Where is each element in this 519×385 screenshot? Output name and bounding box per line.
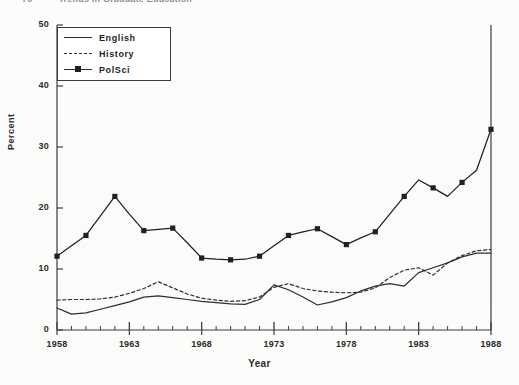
data-point-marker (286, 233, 291, 238)
x-tick-label: 1983 (399, 339, 439, 349)
data-point-marker (228, 257, 233, 262)
data-point-marker (54, 254, 59, 259)
data-point-marker (257, 254, 262, 259)
y-axis-title: Percent (6, 113, 16, 150)
data-point-marker (402, 194, 407, 199)
legend-item-history: History (64, 47, 134, 61)
y-tick-label: 40 (19, 80, 49, 90)
data-point-marker (315, 226, 320, 231)
data-point-marker (112, 194, 117, 199)
data-point-marker (488, 127, 493, 132)
legend-item-polsci: PolSci (64, 63, 130, 77)
data-point-marker (459, 180, 464, 185)
legend-label-english: English (99, 33, 136, 43)
legend-line-solid-icon (64, 33, 92, 43)
series-line-english (57, 253, 491, 314)
data-point-marker (141, 228, 146, 233)
data-point-marker (170, 226, 175, 231)
x-tick-label: 1988 (471, 339, 511, 349)
y-tick-label: 10 (19, 263, 49, 273)
scanned-page: 70 Trends in Graduate Education Percent … (0, 0, 519, 385)
data-point-marker (344, 242, 349, 247)
legend-item-english: English (64, 31, 136, 45)
y-tick-label: 30 (19, 141, 49, 151)
x-axis-title: Year (0, 358, 519, 369)
legend-line-marker-icon (64, 65, 92, 75)
x-tick-label: 1968 (182, 339, 222, 349)
data-point-marker (373, 229, 378, 234)
legend-label-history: History (99, 49, 134, 59)
legend-label-polsci: PolSci (99, 65, 130, 75)
y-tick-label: 50 (19, 19, 49, 29)
chart-legend: English History PolSci (57, 27, 171, 81)
data-point-marker (83, 233, 88, 238)
y-tick-label: 20 (19, 202, 49, 212)
data-point-marker (199, 255, 204, 260)
y-tick-label: 0 (19, 324, 49, 334)
x-tick-label: 1958 (37, 339, 77, 349)
x-tick-label: 1973 (254, 339, 294, 349)
x-tick-label: 1978 (326, 339, 366, 349)
data-point-marker (431, 185, 436, 190)
x-tick-label: 1963 (109, 339, 149, 349)
legend-line-dashed-icon (64, 49, 92, 59)
series-line-polsci (57, 129, 491, 260)
series-line-history (57, 249, 491, 301)
